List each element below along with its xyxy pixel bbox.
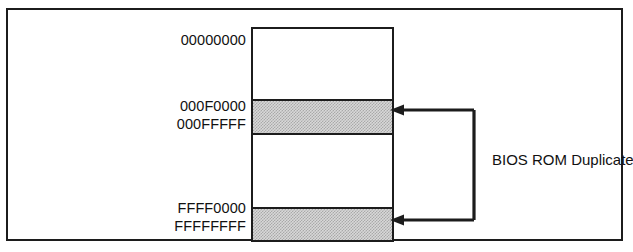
address-label-high-rom-end: FFFFFFFF <box>158 218 246 234</box>
address-label-high-rom-start: FFFF0000 <box>158 200 246 216</box>
arrowhead-low-rom-icon <box>390 105 404 116</box>
address-label-top: 00000000 <box>158 32 246 48</box>
annotation-label-bios-rom-duplicate: BIOS ROM Duplicate <box>492 151 633 168</box>
figure-border: 00000000 000F0000 000FFFFF FFFF0000 FFFF… <box>6 8 623 241</box>
bios-rom-duplicate-connector <box>388 102 483 228</box>
memory-region-low-rom <box>253 99 392 135</box>
arrowhead-high-rom-icon <box>390 215 404 226</box>
memory-map-figure: 00000000 000F0000 000FFFFF FFFF0000 FFFF… <box>0 0 633 252</box>
address-label-low-rom-start: 000F0000 <box>158 98 246 114</box>
address-label-low-rom-end: 000FFFFF <box>158 116 246 132</box>
memory-address-space-column <box>251 27 394 242</box>
memory-region-high-rom <box>253 207 392 240</box>
